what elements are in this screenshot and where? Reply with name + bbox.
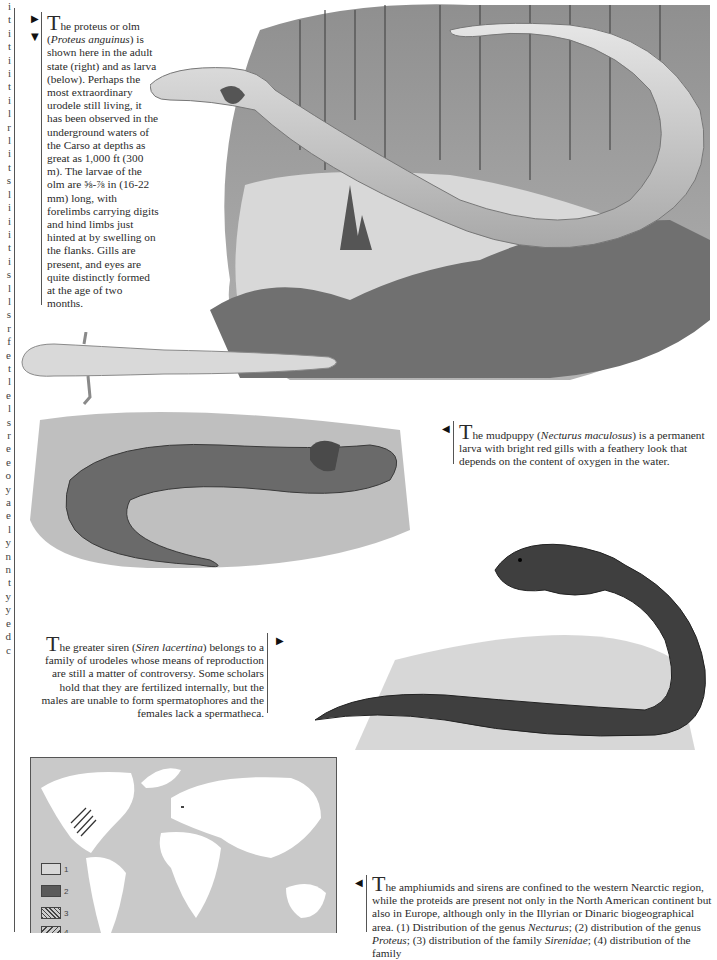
greater-siren-illustration: [295, 530, 717, 755]
caption-mudpuppy: The mudpuppy (Necturus maculosus) is a p…: [459, 424, 714, 469]
caption-rule: [41, 12, 42, 305]
drop-cap: T: [47, 10, 60, 35]
legend-label: 3: [64, 909, 68, 918]
legend-item-2: 2: [41, 885, 68, 897]
column-divider: [14, 8, 15, 932]
arrow-left-icon: ◀: [442, 424, 450, 434]
caption-rule: [366, 875, 367, 932]
proteus-adult-illustration: [150, 0, 717, 385]
legend-label: 1: [64, 865, 68, 874]
legend-swatch: [41, 863, 61, 875]
arrow-down-icon: ▼: [31, 32, 39, 42]
proteus-larva-illustration: [14, 332, 344, 407]
world-map-shapes: [31, 758, 336, 933]
legend-item-1: 1: [41, 863, 68, 875]
legend-label: 2: [64, 887, 68, 896]
caption-proteus: The proteus or olm (Proteus anguinus) is…: [47, 15, 159, 310]
arrow-right-icon: ▶: [31, 14, 39, 24]
caption-distribution: The amphiumids and sirens are confined t…: [372, 876, 717, 960]
legend-item-4: 4: [41, 926, 68, 933]
world-distribution-map: 1 2 3 4: [30, 757, 337, 933]
legend-swatch: [41, 907, 61, 919]
legend-item-3: 3: [41, 907, 68, 919]
cropped-adjacent-column: ititiitilrlitsliiitisllsrfetlelsreeoyael…: [0, 0, 12, 932]
caption-rule: [453, 421, 454, 464]
legend-swatch: [41, 926, 61, 933]
caption-siren: The greater siren (Siren lacertina) belo…: [40, 636, 264, 720]
drop-cap: T: [459, 419, 472, 444]
drop-cap: T: [372, 871, 385, 896]
caption-rule: [267, 633, 268, 713]
arrow-left-icon: ◀: [355, 878, 363, 888]
legend-swatch: [41, 885, 61, 897]
drop-cap: T: [46, 631, 59, 656]
arrow-right-icon: ▶: [276, 636, 284, 646]
legend-label: 4: [64, 928, 68, 934]
